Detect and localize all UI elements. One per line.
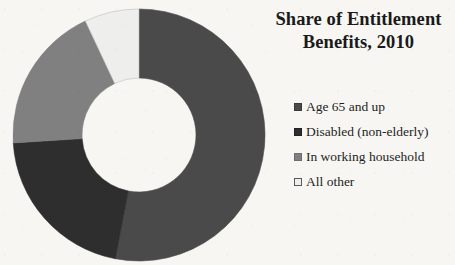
legend-swatch-icon: [294, 153, 302, 161]
legend-item-label: In working household: [306, 150, 425, 164]
legend-item-disabled-non-elderly[interactable]: Disabled (non-elderly): [294, 121, 455, 143]
legend-item-label: Age 65 and up: [306, 100, 385, 114]
legend-item-label: All other: [306, 175, 354, 189]
legend-item-all-other[interactable]: All other: [294, 171, 455, 193]
chart-title: Share of Entitlement Benefits, 2010: [262, 8, 455, 53]
chart-side-panel: Share of Entitlement Benefits, 2010 Age …: [262, 0, 455, 265]
doughnut-slice[interactable]: [13, 139, 128, 259]
doughnut-chart: [8, 5, 270, 265]
legend-item-in-working-household[interactable]: In working household: [294, 146, 455, 168]
legend-swatch-icon: [294, 128, 302, 136]
doughnut-svg: [8, 5, 270, 265]
doughnut-slice-group: [13, 9, 265, 261]
chart-title-line-2: Benefits, 2010: [262, 31, 455, 54]
legend-item-age-65-and-up[interactable]: Age 65 and up: [294, 96, 455, 118]
chart-figure: Share of Entitlement Benefits, 2010 Age …: [0, 0, 455, 265]
legend-item-label: Disabled (non-elderly): [306, 125, 429, 139]
legend-swatch-icon: [294, 178, 302, 186]
chart-title-line-1: Share of Entitlement: [262, 8, 455, 31]
legend-swatch-icon: [294, 103, 302, 111]
chart-legend: Age 65 and up Disabled (non-elderly) In …: [294, 96, 455, 196]
